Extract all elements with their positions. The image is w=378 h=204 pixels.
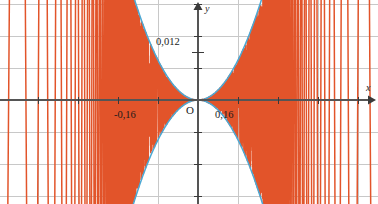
x-tick-label-positive: 0,16 bbox=[215, 109, 233, 120]
y-tick-label-positive: 0,012 bbox=[156, 36, 180, 47]
plot-canvas bbox=[0, 0, 378, 204]
y-axis-label: y bbox=[205, 3, 209, 14]
math-plot-figure: y x 0,012 -0,16 0,16 O bbox=[0, 0, 378, 204]
x-tick-label-negative: -0,16 bbox=[114, 109, 136, 120]
x-axis-label: x bbox=[366, 82, 370, 93]
origin-label: O bbox=[186, 104, 194, 116]
